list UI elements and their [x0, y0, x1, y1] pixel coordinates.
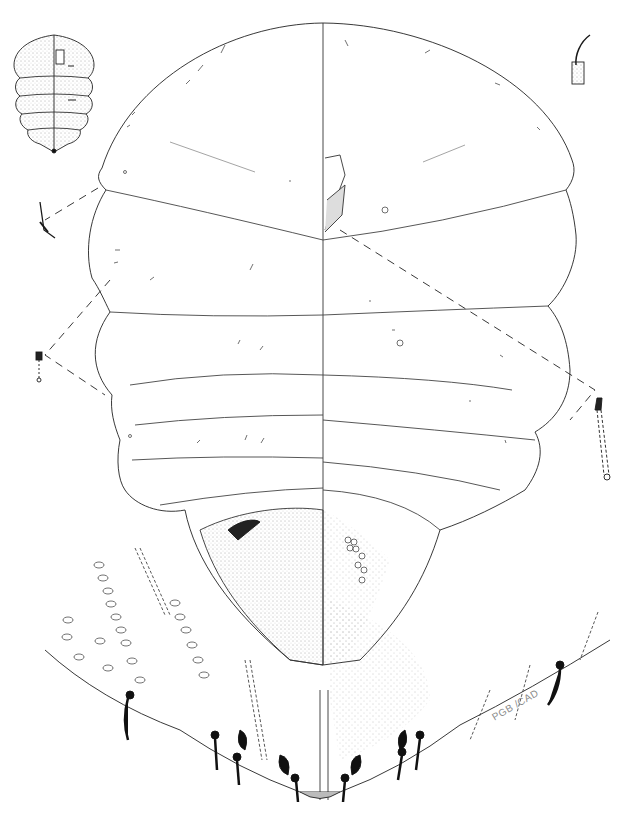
pointer-lines — [45, 188, 595, 420]
leg-stub — [325, 155, 345, 232]
seta-detail-top-right — [572, 35, 590, 84]
duct-detail-left — [36, 352, 42, 382]
marginal-seta-detail-left — [40, 202, 55, 238]
habitus-inset — [14, 35, 94, 153]
duct-detail-right — [595, 398, 610, 480]
setae — [114, 40, 540, 443]
